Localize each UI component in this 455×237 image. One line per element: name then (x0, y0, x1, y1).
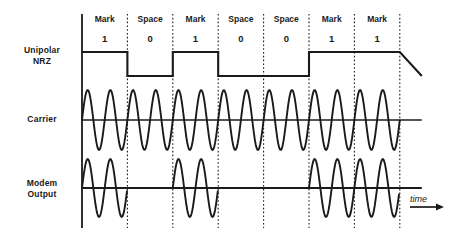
modem-output-waveform (82, 159, 422, 217)
time-arrow-icon (410, 203, 444, 210)
unipolar-nrz-waveform (82, 52, 422, 76)
waveform-canvas (0, 0, 455, 237)
carrier-waveform (82, 90, 422, 150)
waveform-diagram: Unipolar NRZ Carrier Modem Output Mark1S… (0, 0, 455, 237)
time-axis-label: time (410, 194, 427, 204)
